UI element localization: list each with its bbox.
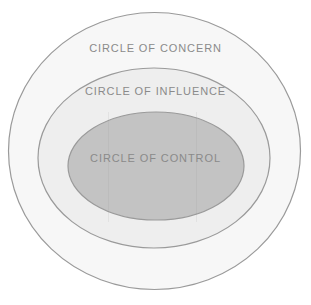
circle-of-control-shape[interactable] (68, 112, 244, 220)
diagram-canvas: CIRCLE OF CONCERN CIRCLE OF INFLUENCE CI… (0, 0, 311, 305)
circle-of-control-label: CIRCLE OF CONTROL (0, 152, 311, 165)
circle-of-influence-label: CIRCLE OF INFLUENCE (0, 85, 311, 98)
circle-of-concern-label: CIRCLE OF CONCERN (0, 42, 311, 55)
